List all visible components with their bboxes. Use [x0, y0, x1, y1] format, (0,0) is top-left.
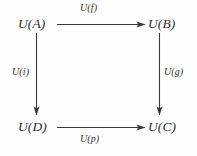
node-label-d: U(D)	[18, 120, 47, 134]
edge-label-bottom: U(p)	[80, 134, 99, 144]
node-label-c: U(C)	[148, 120, 176, 134]
node-label-a: U(A)	[18, 17, 45, 31]
edge-label-left: U(i)	[12, 67, 29, 77]
edge-label-right: U(g)	[164, 67, 183, 77]
edge-label-top: U(f)	[80, 3, 97, 13]
node-label-b: U(B)	[148, 17, 175, 31]
commutative-diagram: U(A) U(B) U(D) U(C) U(f) U(g) U(i) U(p)	[0, 0, 197, 156]
